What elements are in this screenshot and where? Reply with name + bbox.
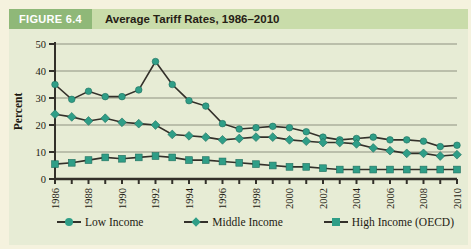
circle-marker [68, 96, 75, 103]
square-marker [320, 165, 327, 172]
square-marker [219, 158, 226, 165]
diamond-marker [84, 117, 93, 126]
diamond-marker [134, 119, 143, 128]
circle-marker [135, 87, 142, 94]
square-marker [387, 166, 394, 173]
x-tick-label: 2008 [418, 188, 429, 209]
x-tick-label: 2000 [284, 188, 295, 209]
square-marker [152, 153, 159, 160]
legend-item-middle-income: Middle Income [184, 216, 283, 228]
circle-marker [219, 120, 226, 127]
circle-marker [169, 81, 176, 88]
square-marker [202, 157, 209, 164]
square-marker [236, 159, 243, 166]
square-marker [303, 163, 310, 170]
square-marker [336, 166, 343, 173]
circle-marker [119, 93, 126, 100]
circle-marker [253, 124, 260, 131]
y-tick-label: 10 [36, 147, 47, 158]
diamond-marker [201, 133, 210, 142]
circle-marker [370, 134, 377, 141]
diamond-marker [402, 149, 411, 158]
y-tick-label: 0 [41, 174, 46, 185]
x-tick-label: 2004 [351, 187, 362, 209]
x-tick-label: 1990 [117, 188, 128, 209]
circle-marker [420, 138, 427, 145]
x-tick-label: 1998 [251, 188, 262, 209]
diamond-marker [302, 137, 311, 146]
circle-marker [202, 103, 209, 110]
legend-item-low-income: Low Income [57, 216, 143, 228]
legend-label: High Income (OECD) [352, 216, 454, 228]
x-tick-label: 2006 [385, 188, 396, 209]
figure-container: FIGURE 6.4 Average Tariff Rates, 1986–20… [0, 0, 471, 249]
series-high-income-oecd [52, 153, 461, 173]
diamond-marker [369, 144, 378, 153]
high-income-marker-icon [324, 217, 348, 227]
circle-marker [403, 137, 410, 144]
diamond-marker [386, 146, 395, 155]
diamond-marker [285, 135, 294, 144]
tariff-rates-line-chart: 0102030405019861988199019921994199619982… [11, 32, 466, 219]
y-tick-label: 50 [36, 39, 47, 50]
diamond-marker [319, 138, 328, 147]
square-marker [370, 166, 377, 173]
circle-marker [286, 124, 293, 131]
square-marker [353, 166, 360, 173]
circle-marker [387, 137, 394, 144]
x-tick-label: 1992 [150, 188, 161, 209]
series-middle-income [51, 110, 462, 161]
square-marker [286, 163, 293, 170]
y-axis-title: Percent [12, 93, 24, 131]
square-marker [437, 166, 444, 173]
chart-legend: Low Income Middle Income High Income (OE… [11, 216, 468, 228]
square-marker [186, 157, 193, 164]
figure-number-label: FIGURE 6.4 [9, 9, 92, 29]
square-marker [420, 166, 427, 173]
square-marker [85, 157, 92, 164]
circle-marker [152, 58, 159, 65]
square-marker [52, 161, 59, 168]
diamond-marker [101, 114, 110, 123]
diamond-marker [51, 110, 60, 119]
figure-panel: 0102030405019861988199019921994199619982… [9, 29, 468, 245]
low-income-marker-icon [57, 217, 81, 227]
legend-label: Low Income [85, 216, 143, 228]
square-marker [253, 161, 260, 168]
legend-item-high-income: High Income (OECD) [324, 216, 454, 228]
square-marker [403, 166, 410, 173]
circle-marker [269, 123, 276, 130]
circle-marker [303, 128, 310, 135]
circle-marker [85, 88, 92, 95]
circle-marker [186, 97, 193, 104]
middle-income-marker-icon [184, 217, 208, 227]
x-tick-label: 1994 [184, 187, 195, 209]
square-marker [119, 155, 126, 162]
x-tick-label: 1996 [217, 188, 228, 209]
diamond-marker [218, 135, 227, 144]
diamond-marker [268, 133, 277, 142]
diamond-marker [419, 149, 428, 158]
diamond-marker [67, 113, 76, 122]
diamond-marker [436, 152, 445, 161]
square-marker [269, 162, 276, 169]
square-marker [169, 154, 176, 161]
diamond-marker [151, 121, 160, 130]
diamond-marker [168, 130, 177, 139]
diamond-marker [352, 140, 361, 149]
square-marker [68, 159, 75, 166]
x-tick-label: 1986 [50, 188, 61, 209]
figure-header: FIGURE 6.4 Average Tariff Rates, 1986–20… [9, 9, 468, 29]
y-tick-label: 30 [36, 93, 47, 104]
diamond-marker [235, 134, 244, 143]
circle-marker [437, 143, 444, 150]
circle-marker [102, 93, 109, 100]
y-tick-label: 40 [36, 66, 47, 77]
square-marker [102, 154, 109, 161]
diamond-marker [252, 133, 261, 142]
legend-label: Middle Income [212, 216, 283, 228]
diamond-marker [185, 131, 194, 140]
circle-marker [52, 81, 59, 88]
circle-marker [236, 126, 243, 133]
x-tick-label: 2002 [318, 188, 329, 209]
